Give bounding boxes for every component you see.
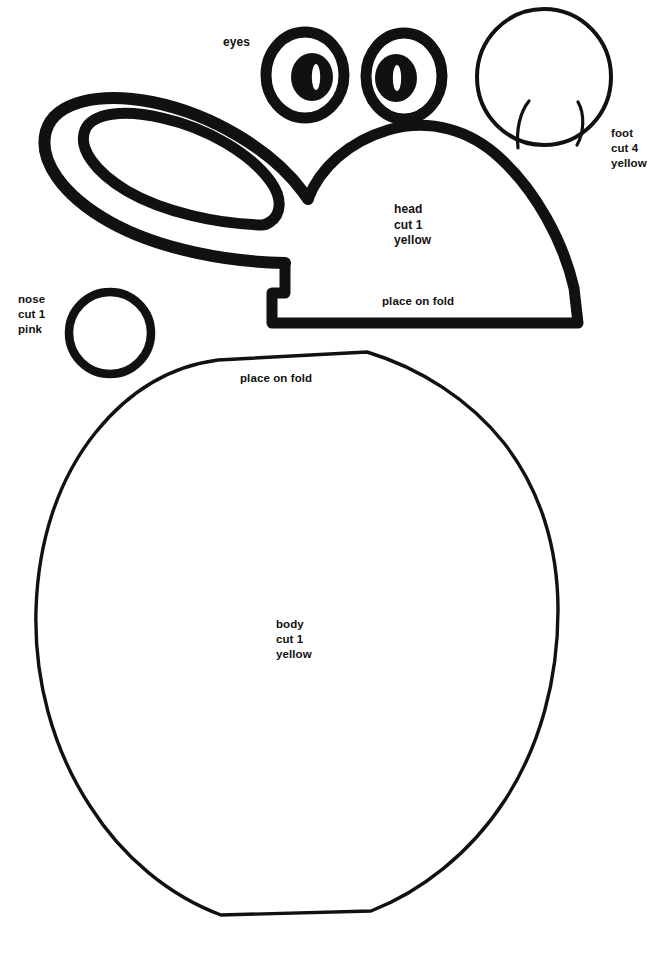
foot-outline <box>477 9 611 145</box>
right-eye-highlight <box>393 65 401 91</box>
label-place-on-fold-body: place on fold <box>240 371 312 386</box>
ear-group <box>44 98 308 263</box>
foot-group <box>477 9 611 148</box>
left-eye-highlight <box>312 64 320 90</box>
eyes-group <box>266 32 442 119</box>
label-head: head cut 1 yellow <box>394 202 431 249</box>
pattern-drawing <box>0 0 669 956</box>
pattern-sheet: eyes foot cut 4 yellow head cut 1 yellow… <box>0 0 669 956</box>
label-place-on-fold-head: place on fold <box>382 294 454 309</box>
foot-toe-line-right <box>577 102 583 145</box>
label-body: body cut 1 yellow <box>276 617 312 662</box>
label-foot: foot cut 4 yellow <box>611 126 647 171</box>
ear-inner-outline <box>83 113 279 225</box>
label-nose: nose cut 1 pink <box>18 292 45 337</box>
label-eyes: eyes <box>223 35 250 51</box>
nose-group <box>69 292 151 374</box>
nose-outline <box>69 292 151 374</box>
